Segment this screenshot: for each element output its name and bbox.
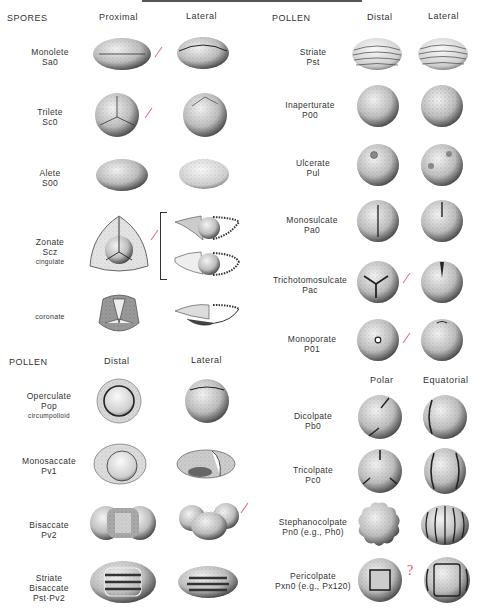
code: P01: [276, 344, 348, 354]
stephanocolpate-equatorial-grain: [420, 504, 470, 546]
code: Pac: [264, 285, 356, 295]
ulcerate-lateral-grain: [420, 143, 464, 187]
name: Monosulcate: [286, 215, 338, 225]
trichotomosulcate-lateral-grain: [420, 260, 464, 304]
name: Striate: [300, 47, 327, 57]
code: Sc0: [20, 117, 80, 127]
pericolpate-polar-grain: [357, 557, 403, 603]
label-coronate: coronate: [20, 312, 80, 321]
code: Pb0: [280, 421, 346, 431]
annotation-tick: [151, 230, 159, 240]
operculate-lateral-grain: [184, 376, 230, 424]
label-monolete: Monolete Sa0: [20, 47, 80, 67]
bisaccate-lateral-grain: [178, 498, 240, 542]
trilete-lateral-grain: [182, 92, 228, 138]
code: Pop: [14, 401, 84, 411]
label-striate-bisaccate: Striate Bisaccate Pst·Pv2: [14, 573, 84, 603]
trichotomosulcate-distal-grain: [356, 260, 400, 304]
pollen-left-col-distal: Distal: [104, 356, 130, 366]
trilete-proximal-grain: [94, 92, 140, 138]
code: Pc0: [280, 475, 346, 485]
code: P00: [274, 110, 346, 120]
monosaccate-distal-grain: [93, 443, 147, 485]
dicolpate-polar-grain: [357, 394, 403, 440]
code: Sa0: [20, 57, 80, 67]
name: Stephanocolpate: [279, 517, 347, 527]
monosulcate-distal-grain: [356, 199, 400, 243]
name: Monosaccate: [22, 456, 76, 466]
alete-proximal-grain: [95, 158, 149, 192]
label-bisaccate: Bisaccate Pv2: [14, 520, 84, 540]
inaperturate-lateral-grain: [420, 84, 464, 128]
code: Pst: [280, 57, 346, 67]
name: Trichotomosulcate: [273, 275, 347, 285]
name: Zonate: [36, 237, 64, 247]
operculate-distal-grain: [96, 378, 142, 424]
label-monoporate: Monoporate P01: [276, 334, 348, 354]
spores-col-lateral: Lateral: [186, 11, 217, 21]
alete-lateral-grain: [178, 158, 230, 190]
label-alete: Alete S00: [20, 168, 80, 188]
label-ulcerate: Ulcerate Pul: [280, 158, 346, 178]
striate-distal-grain: [351, 37, 403, 71]
top-rule: [142, 0, 362, 2]
subtype: Pst·Pv2: [14, 593, 84, 603]
zonate-lateral-grain-1: [173, 212, 241, 242]
striate-bisaccate-lateral-grain: [177, 564, 239, 600]
monolete-proximal-grain: [92, 37, 152, 71]
label-monosaccate: Monosaccate Pv1: [14, 456, 84, 476]
name: Ulcerate: [296, 158, 330, 168]
col-polar: Polar: [370, 375, 394, 385]
stephanocolpate-polar-grain: [356, 501, 402, 547]
name: Trilete: [37, 107, 62, 117]
annotation-tick: [241, 503, 249, 513]
code: Bisaccate: [14, 583, 84, 593]
name: Inaperturate: [285, 100, 334, 110]
label-tricolpate: Tricolpate Pc0: [280, 465, 346, 485]
code: Pv1: [14, 466, 84, 476]
name: Operculate: [27, 391, 72, 401]
pollen-right-col-lateral: Lateral: [428, 11, 459, 21]
zonate-bracket: [160, 212, 167, 280]
label-dicolpate: Dicolpate Pb0: [280, 411, 346, 431]
annotation-tick: [145, 108, 153, 118]
code: Pv2: [14, 530, 84, 540]
col-equatorial: Equatorial: [423, 375, 469, 385]
annotation-tick: [155, 47, 163, 57]
label-inaperturate: Inaperturate P00: [274, 100, 346, 120]
name: Bisaccate: [29, 520, 69, 530]
name: Monolete: [31, 47, 68, 57]
label-zonate: Zonate Scz cingulate: [20, 237, 80, 266]
code: Pxn0 (e.g., Px120): [268, 581, 358, 591]
label-pericolpate: Pericolpate Pxn0 (e.g., Px120): [268, 571, 358, 591]
monosaccate-lateral-grain: [176, 448, 236, 480]
name: Dicolpate: [294, 411, 332, 421]
pericolpate-equatorial-grain: [422, 555, 472, 605]
striate-lateral-grain: [417, 37, 469, 71]
code: Pul: [280, 168, 346, 178]
label-trichotomosulcate: Trichotomosulcate Pac: [264, 275, 356, 295]
name: Striate: [36, 573, 63, 583]
name: Tricolpate: [293, 465, 333, 475]
monolete-lateral-grain: [176, 37, 230, 70]
code: Pn0 (e.g., Ph0): [268, 527, 358, 537]
dicolpate-equatorial-grain: [422, 394, 468, 440]
subtype: cingulate: [20, 257, 80, 266]
monosulcate-lateral-grain: [420, 199, 464, 243]
zonate-proximal-grain: [88, 214, 150, 276]
label-stephanocolpate: Stephanocolpate Pn0 (e.g., Ph0): [268, 517, 358, 537]
inaperturate-distal-grain: [356, 84, 400, 128]
monoporate-distal-grain: [356, 318, 400, 362]
tricolpate-equatorial-grain: [422, 447, 468, 495]
bisaccate-distal-grain: [89, 503, 157, 543]
coronate-proximal-grain: [97, 293, 141, 337]
code: Scz: [20, 247, 80, 257]
pollen-right-col-distal: Distal: [367, 12, 393, 22]
code: Pa0: [276, 225, 348, 235]
subtype: coronate: [20, 312, 80, 321]
pollen-right-heading: POLLEN: [272, 13, 311, 23]
spores-col-proximal: Proximal: [99, 12, 138, 22]
code: S00: [20, 178, 80, 188]
label-trilete: Trilete Sc0: [20, 107, 80, 127]
spores-heading: SPORES: [7, 13, 48, 23]
